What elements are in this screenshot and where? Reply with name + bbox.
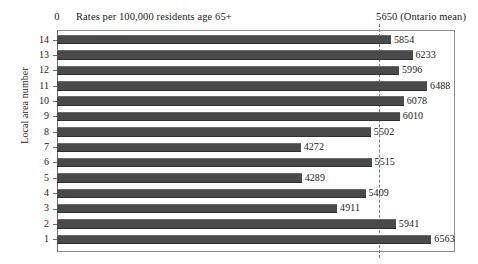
y-axis-tick-label: 1 bbox=[27, 233, 49, 244]
bar-value-label: 4911 bbox=[340, 202, 360, 213]
y-axis-tick-label: 14 bbox=[27, 34, 49, 45]
y-axis-tick-label: 11 bbox=[27, 80, 49, 91]
bar-row: 34911 bbox=[57, 201, 455, 216]
bar bbox=[57, 66, 399, 75]
y-axis-tick-label: 12 bbox=[27, 64, 49, 75]
bar-value-label: 6488 bbox=[430, 80, 450, 91]
bar-row: 16563 bbox=[57, 232, 455, 247]
bar-value-label: 5515 bbox=[375, 156, 395, 167]
bar-row: 65515 bbox=[57, 155, 455, 170]
y-axis-tick-label: 4 bbox=[27, 187, 49, 198]
bar-value-label: 5409 bbox=[369, 187, 389, 198]
bar bbox=[57, 219, 396, 228]
bar bbox=[57, 81, 427, 90]
bar-row: 45409 bbox=[57, 186, 455, 201]
bar-value-label: 5854 bbox=[394, 34, 414, 45]
bar-value-label: 6233 bbox=[416, 49, 436, 60]
bar-row: 136233 bbox=[57, 48, 455, 63]
bar bbox=[57, 235, 431, 244]
bar-row: 74272 bbox=[57, 140, 455, 155]
y-axis-tick-label: 5 bbox=[27, 172, 49, 183]
y-axis-tick-label: 7 bbox=[27, 141, 49, 152]
bar bbox=[57, 189, 366, 198]
bar-value-label: 4289 bbox=[305, 172, 325, 183]
reference-line-label: 5650 (Ontario mean) bbox=[376, 11, 466, 22]
bar-row: 96010 bbox=[57, 109, 455, 124]
bar-value-label: 5502 bbox=[374, 126, 394, 137]
bar-row: 54289 bbox=[57, 171, 455, 186]
bar bbox=[57, 127, 371, 136]
bar bbox=[57, 173, 302, 182]
bar-value-label: 6078 bbox=[407, 95, 427, 106]
bar-row: 106078 bbox=[57, 94, 455, 109]
y-axis-tick-label: 6 bbox=[27, 156, 49, 167]
bar-value-label: 6010 bbox=[403, 110, 423, 121]
bar bbox=[57, 204, 337, 213]
bar bbox=[57, 35, 391, 44]
bar-value-label: 5996 bbox=[402, 64, 422, 75]
y-axis-tick-label: 9 bbox=[27, 110, 49, 121]
y-axis-tick-label: 10 bbox=[27, 95, 49, 106]
bar-value-label: 4272 bbox=[304, 141, 324, 152]
bar-value-label: 6563 bbox=[434, 233, 454, 244]
y-axis-tick-label: 2 bbox=[27, 218, 49, 229]
x-axis-origin-label: 0 bbox=[46, 11, 68, 22]
bar-row: 145854 bbox=[57, 33, 455, 48]
bar bbox=[57, 96, 404, 105]
bar bbox=[57, 50, 413, 59]
y-axis-tick-label: 3 bbox=[27, 202, 49, 213]
bar bbox=[57, 158, 372, 167]
bar-row: 85502 bbox=[57, 125, 455, 140]
chart-title: Rates per 100,000 residents age 65+ bbox=[76, 11, 232, 22]
bar bbox=[57, 112, 400, 121]
y-axis-tick-label: 13 bbox=[27, 49, 49, 60]
bar-row: 125996 bbox=[57, 63, 455, 78]
bar-value-label: 5941 bbox=[399, 218, 419, 229]
bar bbox=[57, 143, 301, 152]
bar-chart: 0 Rates per 100,000 residents age 65+ 56… bbox=[0, 0, 478, 264]
y-axis-tick-label: 8 bbox=[27, 126, 49, 137]
bar-row: 25941 bbox=[57, 217, 455, 232]
bar-row: 116488 bbox=[57, 79, 455, 94]
